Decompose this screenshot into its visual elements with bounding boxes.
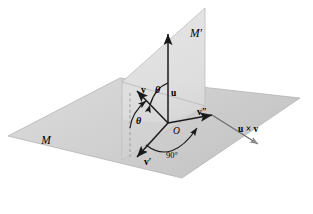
plane-mprime-label: M′ xyxy=(189,27,203,39)
vector-u-label: u xyxy=(171,88,177,98)
theta-upper-label: θ xyxy=(155,84,161,95)
vector-v-double-prime-label: v″ xyxy=(197,107,207,117)
vector-diagram-svg: M M′ O u v v′ v″ u × v θ θ 90° xyxy=(0,0,313,214)
origin-label: O xyxy=(173,126,180,136)
right-angle-label: 90° xyxy=(166,150,178,160)
vector-v-prime-label: v′ xyxy=(144,157,152,167)
figure-canvas: M M′ O u v v′ v″ u × v θ θ 90° xyxy=(0,0,313,214)
theta-lower-label: θ xyxy=(136,115,142,126)
cross-product-label: u × v xyxy=(238,124,258,134)
plane-m-label: M xyxy=(40,134,52,146)
vector-v-label: v xyxy=(141,85,146,95)
